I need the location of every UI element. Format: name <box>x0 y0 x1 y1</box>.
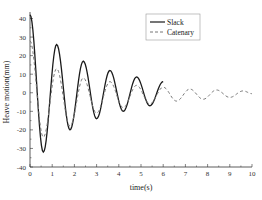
x-tick-label: 8 <box>206 170 210 178</box>
y-tick-label: -10 <box>17 108 27 116</box>
x-tick-label: 10 <box>249 170 257 178</box>
y-tick-label: -20 <box>17 126 27 134</box>
x-tick-label: 2 <box>73 170 77 178</box>
y-tick-label: 40 <box>19 15 27 23</box>
x-tick-label: 4 <box>117 170 121 178</box>
heave-motion-chart: -40-30-20-10010203040012345678910time(s)… <box>0 0 262 200</box>
y-tick-label: 30 <box>19 34 27 42</box>
y-tick-label: 20 <box>19 52 27 60</box>
x-tick-label: 6 <box>161 170 165 178</box>
x-axis-title: time(s) <box>130 183 153 192</box>
legend-label-catenary: Catenary <box>167 28 194 37</box>
y-tick-label: -40 <box>17 164 27 172</box>
x-tick-label: 5 <box>139 170 143 178</box>
x-tick-label: 7 <box>184 170 188 178</box>
y-tick-label: -30 <box>17 145 27 153</box>
x-tick-label: 0 <box>28 170 32 178</box>
y-tick-label: 0 <box>23 89 27 97</box>
x-tick-label: 9 <box>228 170 232 178</box>
y-axis-title: Heave motion(mm) <box>2 60 11 123</box>
series-slack-line <box>30 15 163 152</box>
x-tick-label: 3 <box>95 170 99 178</box>
x-tick-label: 1 <box>50 170 54 178</box>
legend-label-slack: Slack <box>167 18 184 27</box>
y-tick-label: 10 <box>19 71 27 79</box>
